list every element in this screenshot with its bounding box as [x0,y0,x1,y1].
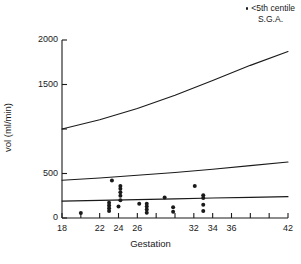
data-point [171,205,175,209]
data-point [117,204,121,208]
x-axis-title: Gestation [0,238,301,249]
data-point [163,196,167,200]
y-axis-title: vol (ml/min) [2,88,13,168]
data-point [107,201,111,205]
data-point [201,203,205,207]
x-tick-label: 36 [218,223,246,233]
data-point [118,190,122,194]
x-tick-label: 26 [123,223,151,233]
data-point [118,194,122,198]
upper-reference-curve [62,52,288,129]
middle-reference-curve [62,162,288,180]
data-point [79,211,83,215]
data-point [201,209,205,213]
data-point [193,184,197,188]
scatter-chart-figure: <5th centile S.G.A. 050015002000 1822242… [0,0,301,264]
y-tick-label: 0 [53,212,58,222]
x-tick-label: 18 [48,223,76,233]
y-tick-label: 1500 [38,79,58,89]
x-tick-label: 42 [274,223,301,233]
data-point [118,184,122,188]
data-point [137,202,141,206]
data-point [145,202,149,206]
data-point [110,179,114,183]
data-point [118,198,122,202]
data-point [201,193,205,197]
y-tick-label: 500 [43,168,58,178]
lower-reference-curve [62,197,288,201]
data-point [171,210,175,214]
y-tick-label: 2000 [38,34,58,44]
